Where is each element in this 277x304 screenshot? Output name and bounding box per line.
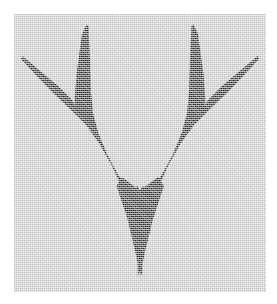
- silhouette-group: [21, 25, 259, 277]
- image-panel: [14, 14, 266, 292]
- left-branch-shape: [21, 25, 143, 277]
- antler-silhouette: [14, 14, 266, 292]
- screenshot-canvas: Antler-like dark silhouette on gray text…: [0, 0, 277, 304]
- figure-alt-text: Antler-like dark silhouette on gray text…: [0, 0, 1, 1]
- right-branch-shape: [137, 25, 259, 277]
- center-wedge-shape: [117, 177, 165, 276]
